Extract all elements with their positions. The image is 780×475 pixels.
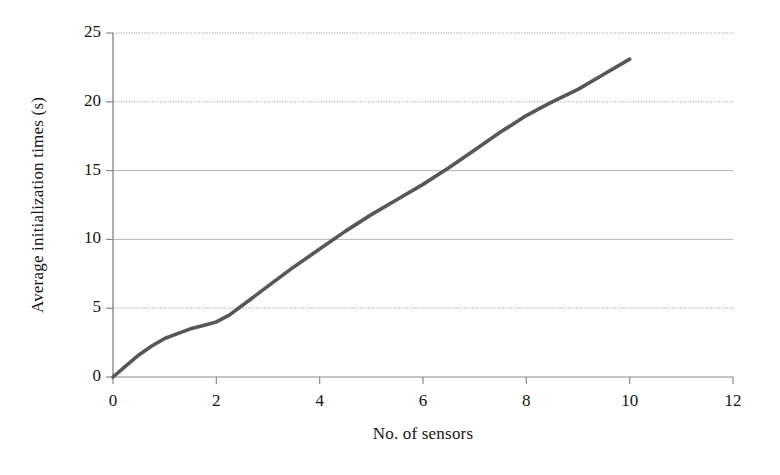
data-series-group bbox=[113, 59, 630, 377]
x-tick-label-8: 8 bbox=[506, 391, 546, 411]
x-tick-label-0: 0 bbox=[93, 391, 133, 411]
gridlines bbox=[113, 33, 733, 308]
y-tick-label-15: 15 bbox=[61, 160, 101, 180]
chart-figure: Average initialization times (s) No. of … bbox=[0, 0, 780, 475]
y-tick-label-25: 25 bbox=[61, 22, 101, 42]
x-axis-ticks bbox=[113, 377, 733, 384]
x-tick-label-10: 10 bbox=[610, 391, 650, 411]
y-tick-label-10: 10 bbox=[61, 228, 101, 248]
y-tick-label-5: 5 bbox=[61, 297, 101, 317]
x-tick-label-12: 12 bbox=[713, 391, 753, 411]
x-tick-label-6: 6 bbox=[403, 391, 443, 411]
y-axis-title: Average initialization times (s) bbox=[28, 5, 48, 405]
x-axis-title: No. of sensors bbox=[113, 424, 733, 444]
y-axis-ticks bbox=[106, 33, 113, 377]
y-tick-label-20: 20 bbox=[61, 91, 101, 111]
x-tick-label-2: 2 bbox=[196, 391, 236, 411]
y-tick-label-0: 0 bbox=[61, 366, 101, 386]
x-tick-label-4: 4 bbox=[300, 391, 340, 411]
series-line-0 bbox=[113, 59, 630, 377]
